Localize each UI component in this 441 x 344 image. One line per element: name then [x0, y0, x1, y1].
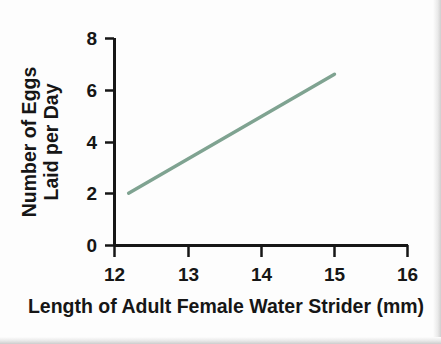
- data-line-series-0: [129, 74, 335, 193]
- scan-edge-bottom: [0, 337, 441, 344]
- y-tick-label-2: 2: [86, 183, 97, 204]
- y-tick-label-0: 0: [86, 235, 97, 256]
- line-chart: 8 6 4 2 0 12 13 14 15 16 Length of Adult…: [0, 0, 441, 344]
- chart-page: 8 6 4 2 0 12 13 14 15 16 Length of Adult…: [0, 0, 441, 344]
- x-tick-label-12: 12: [104, 264, 125, 285]
- x-tick-label-15: 15: [324, 264, 346, 285]
- y-axis-title-line-2: Laid per Day: [40, 83, 62, 200]
- x-tick-label-16: 16: [397, 264, 418, 285]
- y-tick-label-6: 6: [86, 80, 97, 101]
- x-tick-label-13: 13: [178, 264, 199, 285]
- y-tick-label-4: 4: [86, 132, 97, 153]
- y-axis-title: Number of Eggs Laid per Day: [18, 67, 62, 218]
- y-tick-label-8: 8: [86, 28, 97, 49]
- x-axis-title: Length of Adult Female Water Strider (mm…: [28, 295, 424, 317]
- y-axis-title-line-1: Number of Eggs: [18, 67, 40, 218]
- x-tick-label-14: 14: [251, 264, 273, 285]
- chart-plot-area: 8 6 4 2 0 12 13 14 15 16 Length of Adult…: [0, 0, 441, 344]
- scan-edge-right: [433, 0, 441, 344]
